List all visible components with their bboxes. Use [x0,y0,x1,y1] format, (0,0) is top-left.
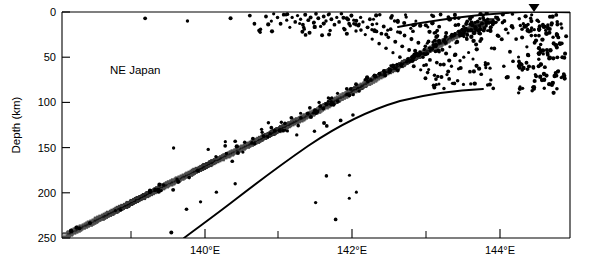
earthquake-dot [279,22,283,26]
earthquake-dot [469,35,473,39]
earthquake-dot [266,135,269,138]
earthquake-dot [285,19,288,22]
earthquake-dot [405,60,409,64]
earthquake-dot [74,226,78,230]
earthquake-dot [553,43,557,47]
earthquake-dot [262,134,266,138]
earthquake-dot [525,45,528,48]
earthquake-dot [444,35,448,39]
earthquake-dot [529,29,533,33]
earthquake-dot [330,96,333,99]
earthquake-dot [531,65,535,69]
earthquake-dot [259,31,262,34]
earthquake-dot [299,116,303,120]
earthquake-dot [266,22,270,26]
earthquake-dot [386,29,389,32]
earthquake-dot [433,73,437,77]
earthquake-dot [480,21,484,25]
earthquake-dot [303,28,306,31]
earthquake-dot [537,58,540,61]
earthquake-dot [547,57,551,61]
earthquake-dot [375,22,378,25]
earthquake-dot [467,51,470,54]
earthquake-dot [504,27,508,31]
earthquake-dot [486,21,490,25]
earthquake-dot [345,32,349,36]
earthquake-dot [468,70,472,74]
earthquake-dot [563,74,566,77]
earthquake-dot [186,19,189,22]
earthquake-dot [479,28,483,32]
earthquake-dot [270,19,273,22]
earthquake-dot [388,68,392,72]
earthquake-dot [354,23,358,27]
earthquake-dot [497,18,501,22]
earthquake-dot [481,16,485,20]
earthquake-dot [520,35,524,39]
earthquake-dot [489,78,492,81]
earthquake-dot [267,121,270,124]
earthquake-dot [431,14,435,18]
earthquake-dot [337,20,341,24]
earthquake-dot [537,46,541,50]
earthquake-dot [371,23,375,27]
earthquake-dot [399,62,403,66]
earthquake-dot [562,56,566,60]
earthquake-dot [391,51,394,54]
earthquake-dot [358,90,361,93]
seismic-cross-section-figure: 0 50 100 150 200 250 Depth (km) 140°E 14… [0,0,590,267]
earthquake-dot [444,31,448,35]
earthquake-dot [482,29,486,33]
earthquake-dot [325,174,329,178]
earthquake-dot [453,53,457,57]
earthquake-dot [426,25,429,28]
earthquake-dot [421,56,424,59]
earthquake-dot [558,41,562,45]
earthquake-dot [400,44,404,48]
earthquake-dot [359,16,362,19]
earthquake-dot [471,57,474,60]
earthquake-dot [538,24,542,28]
earthquake-dot [525,61,529,65]
earthquake-dot [361,20,364,23]
earthquake-dot [335,16,338,19]
earthquake-dot [280,121,283,124]
earthquake-dot [514,37,518,41]
earthquake-dot [460,28,464,32]
earthquake-dot [359,28,363,32]
earthquake-dot [488,67,491,70]
y-tick-label: 150 [38,142,56,154]
earthquake-dot [308,106,312,110]
earthquake-dot [534,34,538,38]
y-tick-label: 0 [50,6,56,18]
earthquake-dot [284,13,287,16]
earthquake-dot [368,17,372,21]
earthquake-dot [468,17,472,21]
y-axis-tick-labels: 0 50 100 150 200 250 [38,6,56,244]
earthquake-dot [502,64,506,68]
earthquake-dot [518,87,522,91]
earthquake-dot [442,62,446,66]
earthquake-dot [563,52,567,56]
earthquake-dot [322,21,326,25]
earthquake-dot [372,18,375,21]
earthquake-dot [172,146,175,149]
earthquake-dot [502,19,506,23]
earthquake-dot [299,18,302,21]
earthquake-dot [551,81,555,85]
earthquake-dot [348,174,351,177]
earthquake-dot [412,64,416,68]
earthquake-dot [143,16,147,20]
earthquake-dot [462,25,465,28]
earthquake-dot [187,176,191,180]
plot-canvas: 0 50 100 150 200 250 Depth (km) 140°E 14… [0,0,590,267]
earthquake-dot [69,229,73,233]
earthquake-hypocenter-scatter [69,11,568,234]
earthquake-dot [355,191,358,194]
earthquake-dot [447,77,451,81]
earthquake-dot [475,47,479,51]
earthquake-dot [462,56,465,59]
earthquake-dot [541,48,546,53]
earthquake-dot [398,55,402,59]
earthquake-dot [542,25,546,29]
